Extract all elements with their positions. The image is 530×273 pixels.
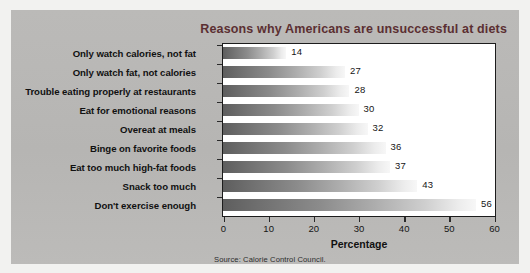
- x-axis-tick-label: 40: [399, 223, 410, 234]
- x-axis-tick: [269, 217, 270, 222]
- x-axis-title: Percentage: [331, 238, 388, 250]
- x-axis-tick-label: 20: [309, 223, 320, 234]
- y-axis-label: Only watch calories, not fat: [73, 48, 196, 59]
- bar: [223, 199, 476, 210]
- bar-value-label: 36: [391, 141, 402, 152]
- bar-row: 56: [223, 196, 495, 215]
- x-axis-tick-label: 30: [354, 223, 365, 234]
- x-axis-tick-label: 0: [221, 223, 226, 234]
- x-axis-tick: [404, 217, 405, 222]
- bar: [223, 104, 359, 115]
- bar-row: 30: [223, 101, 495, 120]
- x-axis-tick-label: 50: [444, 223, 455, 234]
- y-axis-label: Eat for emotional reasons: [79, 105, 196, 116]
- y-axis-label: Snack too much: [123, 181, 196, 192]
- x-axis-tick: [495, 217, 496, 222]
- bar: [223, 66, 345, 77]
- bar: [223, 47, 286, 58]
- bar: [223, 85, 349, 96]
- bar: [223, 142, 386, 153]
- bar-row: 36: [223, 139, 495, 158]
- bar-value-label: 27: [350, 65, 361, 76]
- figure-canvas: Reasons why Americans are unsuccessful a…: [0, 0, 530, 273]
- bars-layer: 142728303236374356: [223, 44, 495, 216]
- x-axis-tick-label: 10: [263, 223, 274, 234]
- source-note: Source: Calorie Control Council.: [214, 255, 326, 264]
- y-axis-label: Trouble eating properly at restaurants: [25, 86, 196, 97]
- bar-row: 27: [223, 63, 495, 82]
- y-axis-label: Binge on favorite foods: [90, 143, 196, 154]
- bar-row: 37: [223, 158, 495, 177]
- chart-title: Reasons why Americans are unsuccessful a…: [200, 22, 507, 36]
- bar-row: 14: [223, 44, 495, 63]
- bar-value-label: 37: [395, 160, 406, 171]
- x-axis-tick: [359, 217, 360, 222]
- bar-value-label: 30: [364, 103, 375, 114]
- y-axis-label: Only watch fat, not calories: [73, 67, 196, 78]
- bar-value-label: 43: [422, 179, 433, 190]
- x-axis-tick: [314, 217, 315, 222]
- plot-area: 142728303236374356: [222, 43, 496, 217]
- bar: [223, 161, 390, 172]
- bar-row: 43: [223, 177, 495, 196]
- y-axis-label: Overeat at meals: [120, 124, 196, 135]
- bar: [223, 123, 368, 134]
- x-axis-tick: [224, 217, 225, 222]
- x-axis-tick-label: 60: [489, 223, 500, 234]
- bar: [223, 180, 417, 191]
- bar-value-label: 14: [291, 46, 302, 57]
- bar-row: 28: [223, 82, 495, 101]
- chart-panel: Reasons why Americans are unsuccessful a…: [11, 10, 519, 264]
- bar-value-label: 56: [481, 198, 492, 209]
- bar-value-label: 28: [354, 84, 365, 95]
- bar-row: 32: [223, 120, 495, 139]
- y-axis-label: Eat too much high-fat foods: [70, 162, 196, 173]
- y-axis-label: Don't exercise enough: [95, 200, 196, 211]
- x-axis-tick: [449, 217, 450, 222]
- bar-value-label: 32: [373, 122, 384, 133]
